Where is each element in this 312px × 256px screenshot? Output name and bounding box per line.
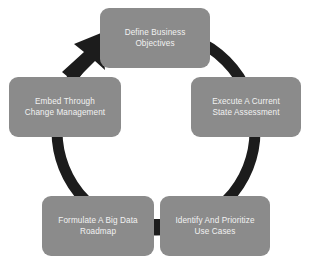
node-formulate-big-data-roadmap[interactable]: Formulate A Big Data Roadmap <box>42 196 154 256</box>
cycle-diagram: Define Business Objectives Execute A Cur… <box>0 0 312 256</box>
node-execute-current-state-assessment[interactable]: Execute A Current State Assessment <box>191 77 301 137</box>
node-formulate-label: Formulate A Big Data Roadmap <box>58 215 137 237</box>
cycle-arrowhead-icon <box>62 33 105 82</box>
node-define-business-objectives[interactable]: Define Business Objectives <box>100 8 210 68</box>
node-embed-label: Embed Through Change Management <box>25 96 105 118</box>
node-define-label: Define Business Objectives <box>125 27 186 49</box>
node-identify-label: Identify And Prioritize Use Cases <box>175 215 254 237</box>
node-embed-change-management[interactable]: Embed Through Change Management <box>9 77 121 137</box>
node-execute-label: Execute A Current State Assessment <box>212 96 280 118</box>
node-identify-prioritize-use-cases[interactable]: Identify And Prioritize Use Cases <box>160 196 270 256</box>
